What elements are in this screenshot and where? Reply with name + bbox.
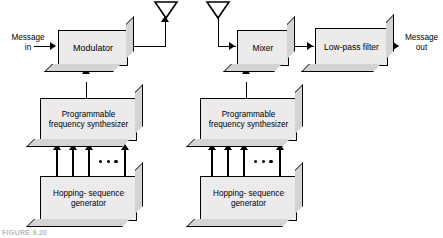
tx-bus-ellipsis xyxy=(99,160,118,163)
tx-frequency-synthesizer-label: Programmable frequency synthesizer xyxy=(41,110,136,129)
mixer-to-filter-arrowhead xyxy=(307,42,313,50)
tx-bus-line-4 xyxy=(124,150,126,176)
lowpass-filter-block[interactable]: Low-pass filter xyxy=(315,28,388,66)
transmit-antenna-icon xyxy=(150,0,182,20)
rx-bus-line-3 xyxy=(243,150,245,176)
modulator-label: Modulator xyxy=(71,43,115,54)
tx-bus-line-3 xyxy=(88,150,90,176)
rx-bus-ellipsis xyxy=(254,160,273,163)
modulator-to-antenna-vline xyxy=(165,22,167,46)
rx-bus-line-1 xyxy=(211,150,213,176)
tx-frequency-synthesizer-block[interactable]: Programmable frequency synthesizer xyxy=(40,98,137,141)
modulator-block[interactable]: Modulator xyxy=(58,30,128,66)
rx-bus-line-2 xyxy=(227,150,229,176)
rx-hopping-sequence-generator-block[interactable]: Hopping- sequence generator xyxy=(200,176,297,221)
rx-frequency-synthesizer-label: Programmable frequency synthesizer xyxy=(201,110,296,129)
rx-antenna-vline xyxy=(218,18,220,46)
tx-hopping-sequence-generator-label: Hopping- sequence generator xyxy=(41,189,136,208)
rx-frequency-synthesizer-block[interactable]: Programmable frequency synthesizer xyxy=(200,98,297,141)
receive-antenna-icon xyxy=(202,0,234,20)
message-in-label: Message in xyxy=(4,33,52,54)
tx-bus-line-1 xyxy=(56,150,58,176)
rx-hopping-sequence-generator-label: Hopping- sequence generator xyxy=(201,189,296,208)
message-out-label: Message out xyxy=(400,33,443,54)
tx-hopping-sequence-generator-block[interactable]: Hopping- sequence generator xyxy=(40,176,137,221)
figure-caption: FIGURE 9.20 xyxy=(2,229,47,236)
tx-bus-line-2 xyxy=(72,150,74,176)
mixer-block[interactable]: Mixer xyxy=(237,30,289,66)
rx-antenna-to-mixer-arrowhead xyxy=(229,42,235,50)
rx-bus-line-4 xyxy=(279,150,281,176)
mixer-label: Mixer xyxy=(251,43,276,53)
lowpass-filter-label: Low-pass filter xyxy=(322,42,381,52)
frequency-hopping-block-diagram: Message in Modulator Programmable freque… xyxy=(0,0,443,238)
